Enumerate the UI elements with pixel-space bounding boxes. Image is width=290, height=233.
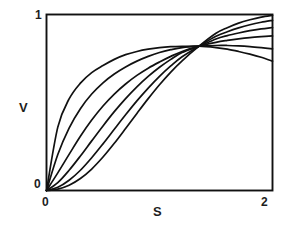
- axes-frame: [47, 15, 273, 191]
- y-axis-tick-top: 1: [35, 9, 42, 21]
- y-axis-label: V: [19, 101, 28, 114]
- x-axis-tick-left: 0: [42, 196, 49, 208]
- curve-series-group: [47, 15, 273, 190]
- x-axis-tick-right: 2: [261, 196, 268, 208]
- x-axis-label: S: [153, 205, 162, 218]
- data-curve-3: [47, 36, 273, 191]
- figure-container: V S 1 0 0 2: [0, 0, 290, 233]
- y-axis-tick-bottom: 0: [34, 178, 41, 190]
- data-curve-6: [47, 15, 273, 190]
- plot-frame: [47, 15, 273, 191]
